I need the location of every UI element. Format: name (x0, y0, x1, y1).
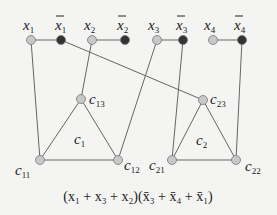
node-x1 (27, 36, 36, 45)
label-x1: x1 (22, 17, 34, 35)
node-not-x2 (121, 36, 130, 45)
label-not-x3: x3 (175, 17, 188, 35)
formula-caption: (x₁ + x₃ + x₂)(x̄₃ + x̄₄ + x̄₁) (63, 189, 213, 205)
label-x4: x4 (203, 17, 216, 35)
label-x2: x2 (83, 17, 95, 35)
label-x3: x3 (147, 17, 160, 35)
label-c11: c11 (15, 162, 30, 180)
label-c22: c22 (245, 158, 261, 176)
label-c12: c12 (124, 157, 140, 175)
variable-labels: x1 x1 x2 x2 x3 x3 x4 x4 (22, 16, 246, 35)
label-triangle-c1: c1 (74, 131, 85, 149)
graph-canvas: x1 x1 x2 x2 x3 x3 x4 x4 c13 c11 c12 c21 … (0, 0, 277, 215)
node-c11 (36, 156, 45, 165)
label-c23: c23 (210, 91, 226, 109)
node-c21 (168, 156, 177, 165)
node-not-x4 (238, 36, 247, 45)
label-not-x1: x1 (54, 17, 66, 35)
label-not-x2: x2 (116, 17, 128, 35)
label-not-x4: x4 (233, 17, 246, 35)
node-c23 (199, 96, 208, 105)
reduction-diagram: x1 x1 x2 x2 x3 x3 x4 x4 c13 c11 c12 c21 … (0, 0, 277, 215)
node-c12 (114, 156, 123, 165)
label-c13: c13 (89, 91, 105, 109)
node-not-x1 (57, 36, 66, 45)
node-x2 (88, 36, 97, 45)
node-c13 (77, 95, 86, 104)
label-triangle-c2: c2 (196, 132, 207, 150)
node-c22 (232, 156, 241, 165)
label-c21: c21 (149, 157, 165, 175)
clause-labels: c13 c11 c12 c21 c22 c23 c1 c2 (15, 91, 261, 180)
node-x4 (209, 36, 218, 45)
node-x3 (153, 36, 162, 45)
node-not-x3 (179, 36, 188, 45)
